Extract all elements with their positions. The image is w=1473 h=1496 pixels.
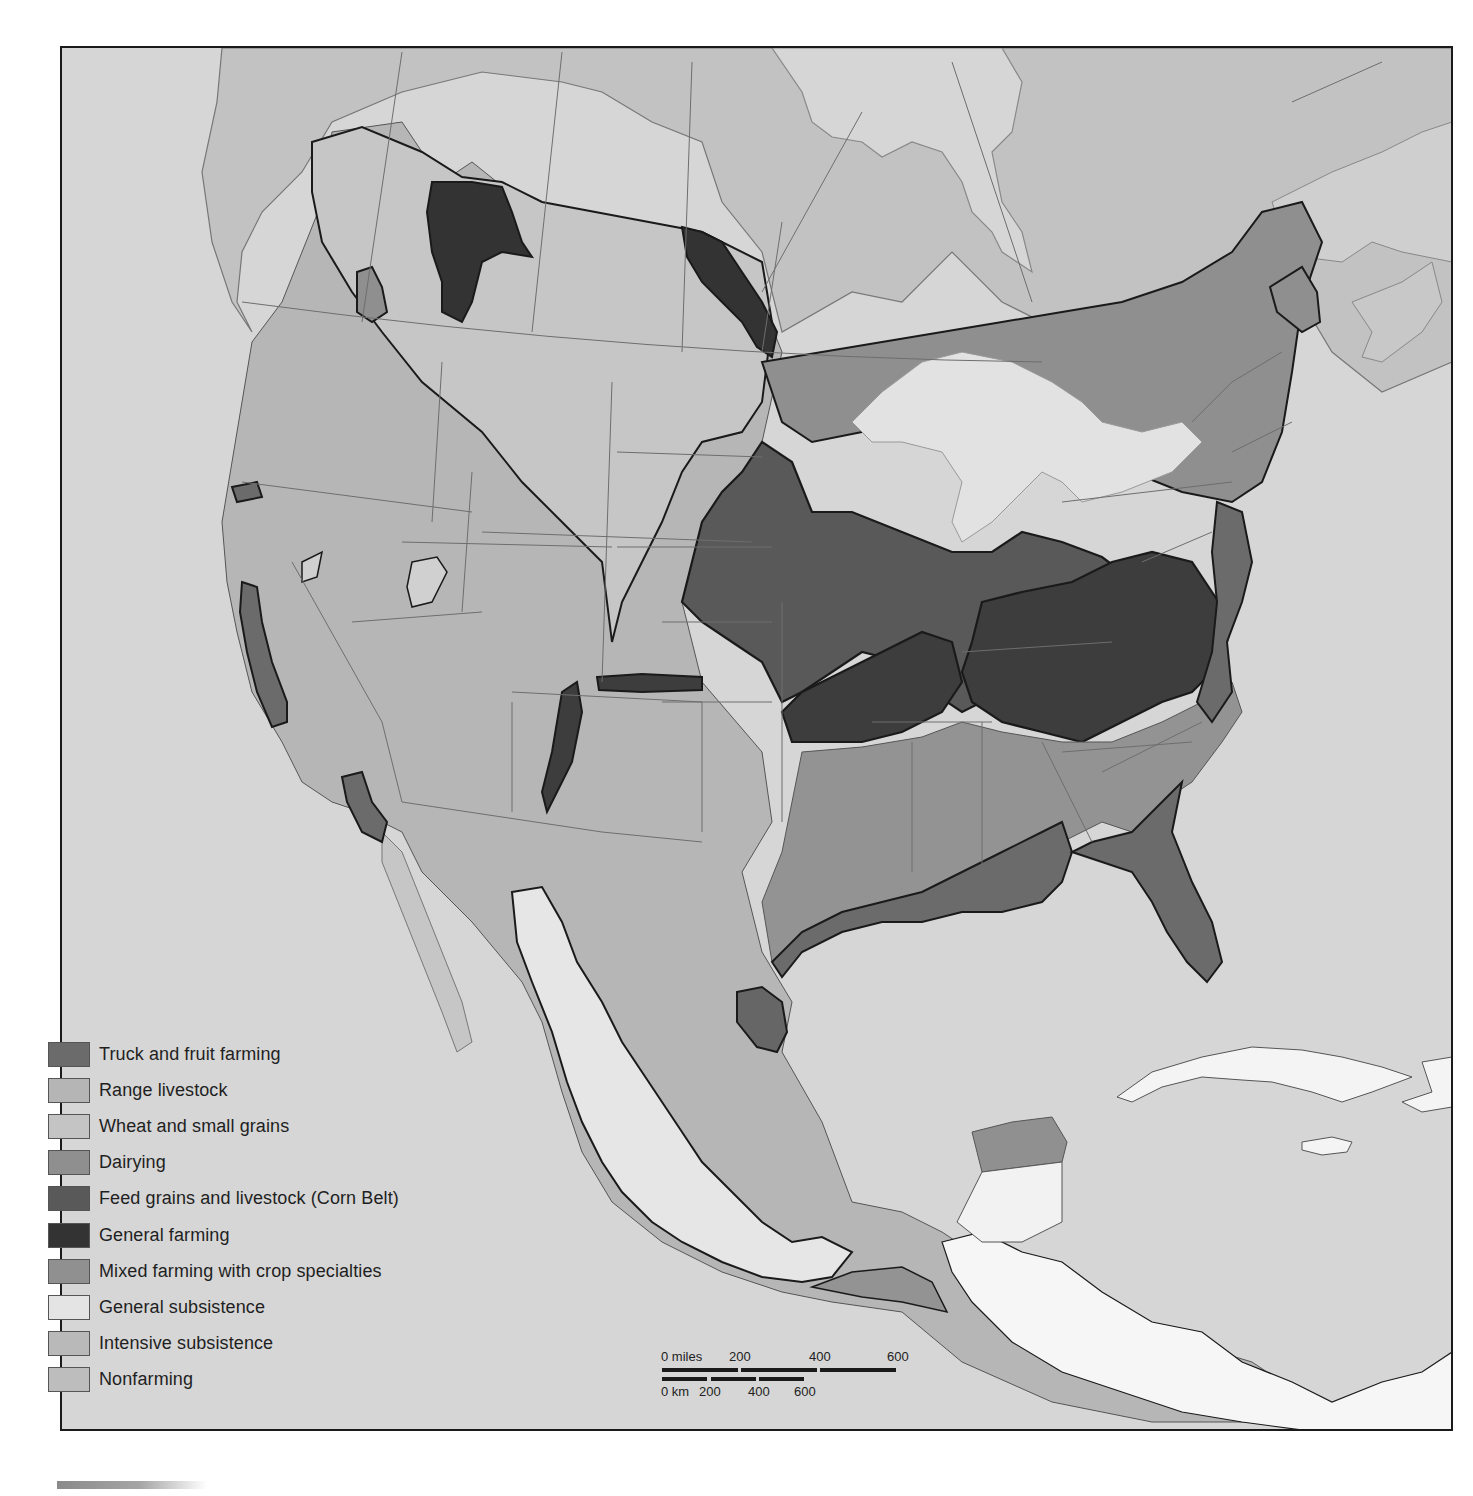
legend-swatch — [48, 1295, 90, 1320]
legend: Truck and fruit farming Range livestock … — [48, 1036, 399, 1398]
scale-km-200: 200 — [699, 1384, 721, 1399]
scale-km-400: 400 — [748, 1384, 770, 1399]
legend-swatch — [48, 1331, 90, 1356]
legend-label: Range livestock — [99, 1080, 228, 1101]
legend-label: Mixed farming with crop specialties — [99, 1261, 382, 1282]
scale-km-segment — [662, 1377, 707, 1381]
scale-km-0: 0 km — [661, 1384, 689, 1399]
region-general-farming-kansas — [597, 674, 702, 692]
legend-item-truck-fruit: Truck and fruit farming — [48, 1036, 399, 1072]
legend-swatch — [48, 1223, 90, 1248]
scale-miles-0: 0 miles — [661, 1349, 702, 1364]
legend-label: Feed grains and livestock (Corn Belt) — [99, 1188, 399, 1209]
legend-label: Intensive subsistence — [99, 1333, 273, 1354]
scale-miles-600: 600 — [887, 1349, 909, 1364]
legend-swatch — [48, 1078, 90, 1103]
legend-label: General subsistence — [99, 1297, 265, 1318]
scale-miles-200: 200 — [729, 1349, 751, 1364]
scale-bar: 0 miles 200 400 600 0 km 200 400 600 — [598, 1326, 868, 1386]
scale-miles-segment — [741, 1368, 817, 1372]
legend-item-intensive-subsistence: Intensive subsistence — [48, 1326, 399, 1362]
legend-item-range-livestock: Range livestock — [48, 1072, 399, 1108]
legend-swatch — [48, 1367, 90, 1392]
legend-label: Nonfarming — [99, 1369, 193, 1390]
legend-swatch — [48, 1259, 90, 1284]
scale-miles-400: 400 — [809, 1349, 831, 1364]
legend-item-general-subsistence: General subsistence — [48, 1289, 399, 1325]
legend-swatch — [48, 1114, 90, 1139]
legend-item-nonfarming: Nonfarming — [48, 1362, 399, 1398]
legend-label: Truck and fruit farming — [99, 1044, 281, 1065]
legend-swatch — [48, 1186, 90, 1211]
scale-km-600: 600 — [794, 1384, 816, 1399]
scale-miles-segment — [820, 1368, 896, 1372]
scale-miles-segment — [662, 1368, 738, 1372]
scale-km-segment — [711, 1377, 756, 1381]
legend-label: Dairying — [99, 1152, 166, 1173]
legend-swatch — [48, 1150, 90, 1175]
legend-item-mixed-farming: Mixed farming with crop specialties — [48, 1253, 399, 1289]
legend-label: General farming — [99, 1225, 230, 1246]
legend-item-corn-belt: Feed grains and livestock (Corn Belt) — [48, 1181, 399, 1217]
legend-item-wheat: Wheat and small grains — [48, 1108, 399, 1144]
legend-swatch — [48, 1042, 90, 1067]
legend-item-dairying: Dairying — [48, 1145, 399, 1181]
scale-km-segment — [759, 1377, 804, 1381]
legend-label: Wheat and small grains — [99, 1116, 289, 1137]
decorative-gradient-strip — [57, 1481, 207, 1489]
legend-item-general-farming: General farming — [48, 1217, 399, 1253]
